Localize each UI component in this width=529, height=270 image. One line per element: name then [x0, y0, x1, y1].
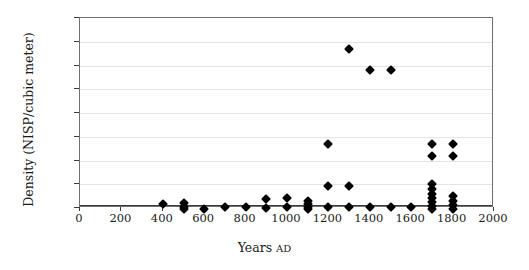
chart-figure: Density (NISP/cubic meter) 0200400600800…	[0, 0, 529, 270]
data-point	[386, 202, 396, 212]
y-axis-title: Density (NISP/cubic meter)	[21, 20, 36, 220]
x-axis-tick-mark	[79, 207, 80, 211]
x-axis-tick-mark	[493, 207, 494, 211]
data-point	[344, 44, 354, 54]
data-point	[261, 194, 271, 204]
data-point	[344, 181, 354, 191]
x-axis-title-main: Years	[238, 240, 272, 255]
data-point	[386, 65, 396, 75]
gridline	[80, 137, 492, 138]
data-point	[448, 139, 458, 149]
gridline	[80, 161, 492, 162]
gridline	[80, 89, 492, 90]
plot-area	[79, 17, 493, 207]
x-axis-title: Years AD	[0, 240, 529, 255]
data-point	[220, 202, 230, 212]
data-point	[344, 202, 354, 212]
data-point	[158, 199, 168, 209]
x-axis-tick-label: 2000	[463, 213, 523, 225]
x-axis-tick-mark	[120, 207, 121, 211]
data-point	[323, 181, 333, 191]
x-axis-title-suffix: AD	[276, 243, 291, 254]
gridline	[80, 42, 492, 43]
gridline	[80, 66, 492, 67]
gridline	[80, 113, 492, 114]
data-point	[365, 65, 375, 75]
data-point	[427, 139, 437, 149]
data-point	[323, 139, 333, 149]
